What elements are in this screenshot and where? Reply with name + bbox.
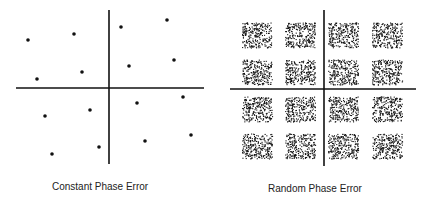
constellation-point bbox=[97, 145, 101, 149]
right-caption: Random Phase Error bbox=[268, 183, 362, 194]
left-caption: Constant Phase Error bbox=[52, 181, 148, 192]
noise-cluster bbox=[285, 60, 316, 85]
constellation-point bbox=[119, 25, 123, 29]
constellation-diagrams bbox=[0, 0, 428, 201]
constellation-point bbox=[143, 139, 147, 143]
noise-cluster bbox=[328, 97, 359, 123]
noise-cluster bbox=[328, 60, 359, 86]
noise-cluster bbox=[242, 60, 273, 86]
constellation-point bbox=[189, 133, 193, 137]
noise-cluster bbox=[242, 97, 273, 123]
noise-cluster bbox=[328, 23, 359, 49]
noise-cluster bbox=[285, 23, 316, 49]
constellation-point bbox=[181, 95, 185, 99]
constellation-point bbox=[172, 58, 176, 62]
constellation-point bbox=[80, 70, 84, 74]
constellation-point bbox=[135, 101, 139, 105]
noise-cluster bbox=[372, 134, 403, 160]
noise-cluster bbox=[242, 23, 272, 49]
constellation-point bbox=[72, 32, 76, 36]
noise-cluster bbox=[285, 97, 316, 123]
constellation-point bbox=[88, 108, 92, 112]
noise-cluster bbox=[372, 60, 403, 86]
noise-cluster bbox=[285, 134, 316, 160]
constellation-point bbox=[35, 77, 39, 81]
constellation-point bbox=[127, 64, 131, 68]
constellation-point bbox=[43, 114, 47, 118]
noise-cluster bbox=[372, 23, 403, 49]
noise-cluster bbox=[328, 134, 359, 160]
constellation-point bbox=[165, 18, 169, 22]
noise-cluster bbox=[242, 134, 273, 160]
constellation-point bbox=[26, 38, 30, 42]
noise-cluster bbox=[372, 97, 403, 123]
constellation-point bbox=[50, 152, 54, 156]
